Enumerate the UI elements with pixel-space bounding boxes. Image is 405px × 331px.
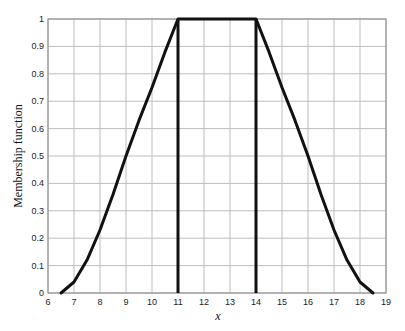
y-tick-labels: 00.10.20.30.40.50.60.70.80.91 xyxy=(31,14,44,298)
x-tick-label: 19 xyxy=(381,297,391,307)
y-tick-label: 0.9 xyxy=(31,41,44,51)
x-tick-label: 6 xyxy=(45,297,50,307)
x-tick-label: 15 xyxy=(277,297,287,307)
x-tick-label: 11 xyxy=(173,297,182,307)
y-tick-label: 0.6 xyxy=(31,124,44,134)
x-tick-label: 16 xyxy=(303,297,313,307)
x-tick-label: 13 xyxy=(225,297,235,307)
y-tick-label: 0.2 xyxy=(31,233,44,243)
y-tick-label: 1 xyxy=(39,14,44,24)
y-tick-label: 0.1 xyxy=(31,261,44,271)
x-axis-label: x xyxy=(214,309,221,323)
x-tick-label: 18 xyxy=(355,297,365,307)
y-axis-label: Membership function xyxy=(11,104,25,208)
x-tick-label: 10 xyxy=(147,297,157,307)
x-tick-label: 8 xyxy=(97,297,102,307)
y-tick-label: 0.3 xyxy=(31,206,44,216)
y-tick-label: 0.4 xyxy=(31,178,44,188)
grid-lines xyxy=(48,19,386,293)
x-tick-label: 17 xyxy=(329,297,339,307)
y-tick-label: 0 xyxy=(39,288,44,298)
y-tick-label: 0.7 xyxy=(31,96,44,106)
x-tick-label: 12 xyxy=(199,297,209,307)
x-tick-label: 9 xyxy=(123,297,128,307)
y-tick-label: 0.5 xyxy=(31,151,44,161)
y-tick-label: 0.8 xyxy=(31,69,44,79)
x-tick-label: 14 xyxy=(251,297,261,307)
x-tick-labels: 678910111213141516171819 xyxy=(45,297,391,307)
x-tick-label: 7 xyxy=(71,297,76,307)
membership-function-chart: 00.10.20.30.40.50.60.70.80.91 6789101112… xyxy=(0,0,405,331)
